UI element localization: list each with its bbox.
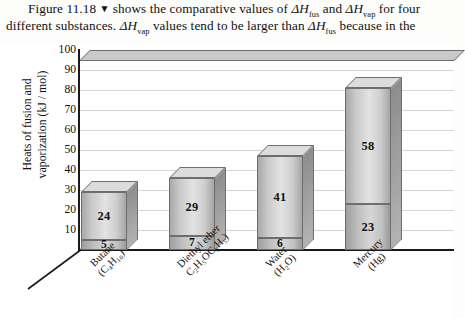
bar-value-fusion: 23	[362, 221, 375, 233]
gridline-90	[79, 70, 454, 71]
bar-segment-vaporization: 24	[81, 192, 127, 240]
y-tick-label-90: 90	[42, 64, 76, 76]
y-axis-tick-labels: 100908070605040302010	[38, 44, 76, 256]
y-axis-title-line-1: Heats of fusion and	[20, 35, 35, 215]
y-tick-label-70: 70	[42, 104, 76, 116]
y-tick-label-20: 20	[42, 204, 76, 216]
bar-butane[interactable]: 524	[81, 192, 127, 250]
bar-side-face	[303, 145, 314, 250]
bar-value-vaporization: 41	[274, 191, 287, 203]
y-tick-label-50: 50	[42, 144, 76, 156]
y-tick-label-30: 30	[42, 184, 76, 196]
y-tick-label-40: 40	[42, 164, 76, 176]
gridline-100	[79, 50, 465, 61]
y-tick-label-80: 80	[42, 84, 76, 96]
y-tick-label-10: 10	[42, 224, 76, 236]
bar-water[interactable]: 641	[257, 156, 303, 250]
caption-line-2: different substances. ΔHvap values tend …	[6, 18, 448, 35]
bar-side-face	[127, 181, 138, 250]
down-triangle-icon: ▼	[100, 3, 110, 14]
bar-segment-vaporization: 58	[345, 88, 391, 204]
floor-depth-edge	[28, 249, 82, 289]
figure-caption: Figure 11.18 ▼ shows the comparative val…	[0, 0, 454, 34]
bar-segment-vaporization: 41	[257, 156, 303, 238]
bar-side-face	[391, 77, 402, 250]
bar-value-vaporization: 29	[186, 201, 199, 213]
y-tick-label-100: 100	[42, 44, 76, 56]
bar-value-vaporization: 58	[362, 140, 375, 152]
bar-mercury[interactable]: 2358	[345, 88, 391, 250]
bar-value-vaporization: 24	[98, 210, 111, 222]
bar-chart-figure: Heats of fusion and vaporization (kJ / m…	[0, 44, 454, 318]
caption-line-1: Figure 11.18 ▼ shows the comparative val…	[6, 1, 448, 18]
y-tick-label-60: 60	[42, 124, 76, 136]
